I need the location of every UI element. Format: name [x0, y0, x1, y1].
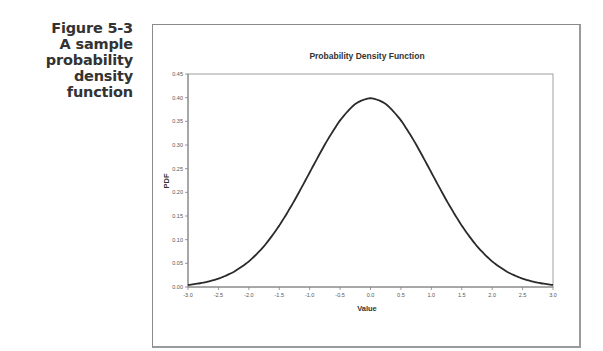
y-tick-label: 0.15: [172, 213, 183, 219]
pdf-curve: [188, 98, 553, 285]
x-tick-label: 0.5: [397, 292, 405, 298]
chart-title: Probability Density Function: [309, 51, 424, 61]
x-tick-label: -3.0: [183, 292, 192, 298]
x-tick-label: -1.0: [305, 292, 314, 298]
y-tick-label: 0.00: [172, 284, 183, 290]
y-tick-label: 0.20: [172, 189, 183, 195]
x-tick-label: -2.0: [244, 292, 253, 298]
y-tick-label: 0.40: [172, 95, 183, 101]
plot-border: [188, 74, 553, 287]
x-tick-label: -2.5: [214, 292, 223, 298]
y-tick-label: 0.10: [172, 237, 183, 243]
y-tick-label: 0.35: [172, 118, 183, 124]
x-tick-label: 1.5: [458, 292, 466, 298]
pdf-chart: Probability Density Function 0.000.050.1…: [0, 0, 603, 351]
x-tick-label: 0.0: [367, 292, 375, 298]
y-tick-label: 0.45: [172, 71, 183, 77]
x-tick-label: -1.5: [275, 292, 284, 298]
y-tick-label: 0.05: [172, 260, 183, 266]
y-axis-title: PDF: [162, 173, 171, 188]
plot-area: 0.000.050.100.150.200.250.300.350.400.45…: [172, 71, 557, 298]
x-tick-label: -0.5: [335, 292, 344, 298]
x-tick-label: 1.0: [428, 292, 436, 298]
x-tick-label: 2.0: [488, 292, 496, 298]
y-tick-label: 0.30: [172, 142, 183, 148]
x-tick-label: 2.5: [519, 292, 527, 298]
y-tick-label: 0.25: [172, 166, 183, 172]
x-axis-title: Value: [357, 304, 377, 313]
x-tick-label: 3.0: [549, 292, 557, 298]
